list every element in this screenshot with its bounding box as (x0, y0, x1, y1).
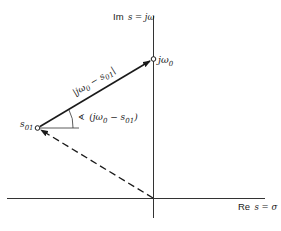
point-jw0 (151, 57, 156, 62)
jw0-label: jω0 (156, 54, 174, 68)
s-plane-diagram: Im s = jω Re s = σ jω0 s01 |jω0 − s01| ∢… (0, 0, 281, 231)
angle-arc (69, 110, 73, 128)
dashed-vector-s01 (41, 130, 153, 198)
point-s01 (35, 126, 40, 131)
s01-label: s01 (20, 119, 34, 132)
real-axis-label: Re s = σ (238, 201, 277, 212)
angle-label: ∢ (jω0 − s01) (78, 112, 138, 125)
imaginary-axis-label: Im s = jω (113, 11, 154, 22)
